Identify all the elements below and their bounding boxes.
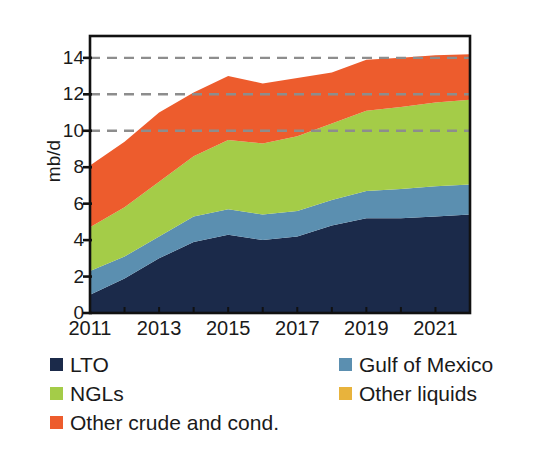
stacked-area-chart (0, 0, 538, 340)
legend-label-other-crude-and-cond: Other crude and cond. (70, 412, 279, 433)
plot-area: mb/d 02468101214 20112013201520172019202… (0, 0, 538, 340)
legend-swatch-ngls (50, 387, 63, 400)
legend-swatch-gulf-of-mexico (339, 358, 352, 371)
legend-label-ngls: NGLs (70, 383, 124, 404)
legend-label-lto: LTO (70, 354, 109, 375)
legend-item-ngls[interactable]: NGLs (50, 383, 124, 404)
chart-series-group (90, 54, 470, 313)
legend-item-other-liquids[interactable]: Other liquids (339, 383, 477, 404)
legend-swatch-other-crude-and-cond (50, 416, 63, 429)
legend-item-gulf-of-mexico[interactable]: Gulf of Mexico (339, 354, 493, 375)
chart-legend: LTOGulf of MexicoNGLsOther liquidsOther … (50, 352, 520, 448)
legend-item-lto[interactable]: LTO (50, 354, 109, 375)
legend-item-other-crude-and-cond[interactable]: Other crude and cond. (50, 412, 279, 433)
figure-root: mb/d 02468101214 20112013201520172019202… (0, 0, 538, 453)
legend-label-other-liquids: Other liquids (359, 383, 477, 404)
legend-swatch-lto (50, 358, 63, 371)
legend-label-gulf-of-mexico: Gulf of Mexico (359, 354, 493, 375)
legend-swatch-other-liquids (339, 387, 352, 400)
